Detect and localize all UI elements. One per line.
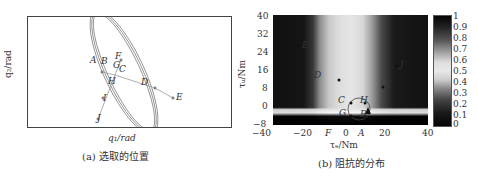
cbar-tick-0.8: 0.8: [453, 33, 467, 43]
cbar-tick-0.3: 0.3: [453, 88, 467, 98]
cbar-tick-0.5: 0.5: [453, 66, 467, 76]
y-tick-8: 8: [262, 83, 268, 93]
point-label-J: J: [97, 113, 101, 123]
heatmap-point-G: G: [339, 108, 346, 118]
x-tick-0: 0: [343, 128, 349, 138]
cbar-tick-0.7: 0.7: [453, 44, 467, 54]
cbar-tick-1: 1: [453, 11, 459, 21]
point-label-A: A: [90, 55, 97, 65]
cbar-tick-0: 0: [453, 119, 459, 129]
y-tick-24: 24: [257, 47, 268, 57]
heatmap-point-D: D: [314, 70, 321, 80]
y-tick-16: 16: [257, 65, 268, 75]
heatmap-annotations: [273, 15, 428, 125]
x-tick-A: A: [358, 128, 365, 138]
x-axis-label-a: q₁/rad: [108, 133, 136, 143]
cbar-tick-0.9: 0.9: [453, 22, 467, 32]
heatmap-point-C: C: [338, 95, 345, 105]
point-label-B: B: [101, 56, 108, 66]
point-label-I: I: [103, 93, 107, 103]
y-axis-label-b: τᵤ/Nm: [237, 60, 247, 88]
y-tick-40: 40: [257, 11, 268, 21]
caption-b: (b) 阻抗的分布: [318, 155, 385, 170]
point-label-D: D: [141, 77, 148, 87]
heatmap-point-B: B: [360, 109, 367, 119]
x-axis-label-b: τₑ/Nm: [330, 140, 358, 150]
x-tick-neg40: −40: [252, 128, 271, 138]
y-tick-32: 32: [257, 29, 268, 39]
heatmap-point-E: E: [302, 40, 309, 50]
heatmap-point-H: H: [360, 95, 368, 105]
x-tick-neg20: −20: [293, 128, 312, 138]
y-tick-0: 0: [262, 101, 268, 111]
point-label-H: H: [108, 76, 116, 86]
cbar-tick-0.2: 0.2: [453, 99, 467, 109]
x-tick-20: 20: [379, 128, 390, 138]
cbar-tick-0.6: 0.6: [453, 55, 467, 65]
cbar-tick-0.4: 0.4: [453, 77, 467, 87]
heatmap-plot: [273, 15, 428, 125]
ellipse-trajectory-diagram: [28, 17, 231, 127]
plot-a-frame: [27, 16, 232, 128]
caption-a: (a) 选取的位置: [82, 148, 149, 163]
heatmap-point-J: J: [400, 59, 404, 69]
point-label-G: G: [113, 60, 120, 70]
colorbar: [433, 15, 452, 127]
y-axis-label-a: q₂/rad: [3, 50, 13, 78]
x-tick-40: 40: [422, 128, 433, 138]
x-tick-F: F: [325, 128, 331, 138]
point-label-E: E: [176, 92, 183, 102]
heatmap-point-I: I: [387, 80, 391, 90]
